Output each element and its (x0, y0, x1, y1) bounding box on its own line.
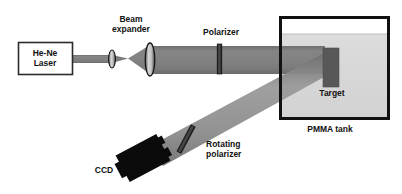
diverging-lens-icon (109, 50, 116, 68)
target-label: Target (319, 88, 344, 98)
beam-expander-label: Beam expander (112, 14, 150, 34)
laser-label: He-Ne Laser (33, 48, 58, 68)
optical-setup-diagram: He-Ne Laser Beam expander Polarizer Targ… (0, 0, 402, 194)
rotating-polarizer-label: Rotating polarizer (206, 139, 241, 159)
pmma-tank-label: PMMA tank (307, 124, 353, 134)
polarizer-element (217, 44, 222, 74)
collimating-lens-icon (145, 43, 155, 76)
polarizer-bar (217, 44, 222, 74)
laser-label-line1: He-Ne (33, 48, 58, 58)
ccd-label: CCD (95, 165, 113, 175)
beam-expander-label-line2: expander (112, 24, 150, 34)
beam-segment-narrow (71, 55, 113, 63)
beam-expander-label-line1: Beam (112, 14, 150, 24)
beam-expander-cone (112, 45, 150, 74)
lens-large (145, 43, 155, 76)
lens-small (109, 50, 116, 68)
polarizer-label: Polarizer (203, 27, 239, 37)
target-rect (323, 48, 339, 87)
beam-laser-to-lens (71, 55, 113, 63)
target-block (323, 48, 339, 87)
rotating-polarizer-label-line1: Rotating (206, 139, 241, 149)
laser-label-line2: Laser (33, 58, 58, 68)
rotating-polarizer-label-line2: polarizer (206, 149, 241, 159)
